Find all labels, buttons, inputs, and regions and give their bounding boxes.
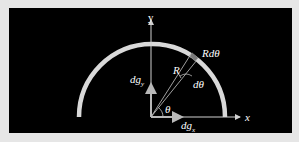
- radius-label: R: [172, 64, 180, 76]
- d-theta-leader: [180, 74, 192, 76]
- dg-x-label: dgx: [181, 119, 196, 134]
- y-axis-label: y: [148, 11, 154, 23]
- x-axis-label: x: [244, 111, 250, 123]
- radius-line-1: [151, 54, 191, 117]
- arc-element-label: Rdθ: [201, 47, 220, 59]
- dg-x-subscript: x: [191, 126, 196, 134]
- theta-label: θ: [165, 103, 171, 115]
- dg-y-label: dgy: [130, 73, 145, 88]
- d-theta-label: dθ: [193, 78, 205, 90]
- semicircle-diagram: y x Rdθ R dθ θ dgy dgx: [0, 0, 299, 142]
- theta-angle-arc: [159, 108, 164, 117]
- arc-element-segment: [191, 54, 197, 60]
- dg-y-subscript: y: [140, 80, 145, 88]
